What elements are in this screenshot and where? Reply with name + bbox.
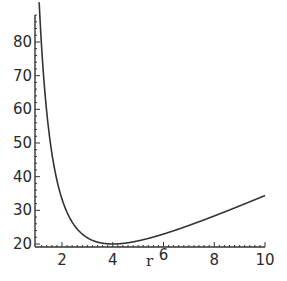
y-tick-label: 80 <box>13 33 32 51</box>
x-tick-label: 10 <box>255 251 274 269</box>
x-tick-label: 2 <box>57 251 67 269</box>
y-axis: 20304050607080 <box>13 15 40 253</box>
data-curve <box>39 2 265 244</box>
y-tick-label: 20 <box>13 235 32 253</box>
x-tick-label: 6 <box>159 246 169 264</box>
x-tick-label: 8 <box>209 251 219 269</box>
x-axis-label: r <box>146 252 154 270</box>
x-tick-label: 4 <box>108 251 118 269</box>
y-tick-label: 30 <box>13 201 32 219</box>
y-tick-label: 60 <box>13 100 32 118</box>
y-tick-label: 40 <box>13 168 32 186</box>
chart: 246810 20304050607080 r <box>0 0 287 281</box>
y-tick-label: 50 <box>13 134 32 152</box>
y-tick-label: 70 <box>13 67 32 85</box>
x-axis: 246810 <box>35 242 275 269</box>
